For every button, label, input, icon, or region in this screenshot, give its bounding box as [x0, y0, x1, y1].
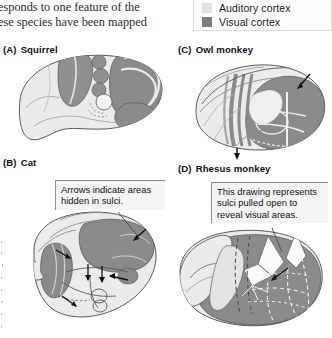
scan-artifact — [1, 241, 2, 243]
scan-artifact — [2, 264, 3, 267]
scan-artifact — [1, 289, 2, 291]
scan-artifact — [2, 301, 3, 303]
cat-brain-drawing — [27, 212, 156, 317]
owl-monkey-down-arrow — [234, 148, 240, 160]
scan-artifact — [1, 326, 2, 328]
scan-artifact — [1, 277, 2, 279]
scan-artifact — [1, 252, 2, 254]
owl-monkey-brain-drawing — [196, 65, 325, 160]
squirrel-brain-drawing — [19, 54, 164, 140]
brain-diagrams — [0, 0, 332, 338]
scan-artifact — [1, 313, 2, 315]
figure-cortex-maps: esponds to one feature of the ese specie… — [0, 0, 332, 338]
rhesus-monkey-brain-drawing — [179, 228, 322, 326]
